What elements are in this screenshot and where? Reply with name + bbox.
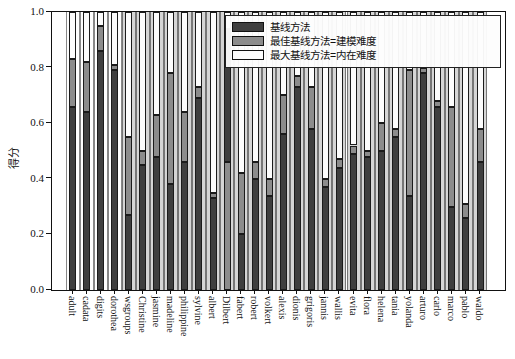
- bar-segment-gray: [448, 107, 455, 207]
- bar-segment-gray: [167, 73, 174, 184]
- bar-segment-dark: [406, 196, 413, 291]
- bar-segment-dark: [308, 129, 315, 290]
- legend-label: 基线方法: [270, 21, 310, 33]
- legend-swatch-gray: [232, 36, 264, 46]
- legend: 基线方法 最佳基线方法=建模难度 最大基线方法=内在难度: [225, 15, 501, 68]
- bar-segment-dark: [392, 137, 399, 290]
- bar-segment-white: [153, 12, 160, 115]
- x-tick-label: jannis: [319, 296, 329, 320]
- x-tick-mark: [451, 290, 452, 294]
- bar-segment-gray: [181, 112, 188, 162]
- x-tick-mark: [296, 290, 297, 294]
- x-tick-label: alexis: [277, 296, 287, 319]
- bar-segment-gray: [294, 76, 301, 87]
- x-tick-mark: [479, 290, 480, 294]
- bar-segment-dark: [462, 218, 469, 290]
- bar-segment-gray: [139, 151, 146, 165]
- legend-label: 最佳基线方法=建模难度: [270, 35, 376, 47]
- x-tick-label: fabert: [235, 296, 245, 319]
- x-tick-mark: [338, 290, 339, 294]
- x-tick-mark: [72, 290, 73, 294]
- y-tick-mark: [46, 177, 51, 178]
- y-tick-label: 0.2: [0, 227, 44, 239]
- bar-segment-dark: [294, 87, 301, 290]
- bar-segment-dark: [83, 112, 90, 290]
- bar-segment-dark: [477, 162, 484, 290]
- bar-segment-dark: [139, 165, 146, 290]
- bar-segment-gray: [350, 146, 357, 154]
- x-tick-mark: [184, 290, 185, 294]
- x-tick-label: wallis: [333, 296, 343, 320]
- bar-segment-gray: [238, 173, 245, 234]
- x-tick-label: Christine: [137, 296, 147, 333]
- x-tick-mark: [324, 290, 325, 294]
- bar-segment-gray: [322, 179, 329, 187]
- x-tick-mark: [409, 290, 410, 294]
- x-tick-mark: [381, 290, 382, 294]
- x-tick-mark: [423, 290, 424, 294]
- bar-segment-gray: [210, 193, 217, 199]
- bar-segment-gray: [224, 162, 231, 290]
- x-tick-label: arturo: [418, 296, 428, 320]
- x-tick-label: philippine: [179, 296, 189, 337]
- x-tick-mark: [128, 290, 129, 294]
- x-tick-mark: [156, 290, 157, 294]
- bar-segment-white: [167, 12, 174, 73]
- y-tick-label: 0.0: [0, 283, 44, 295]
- bar-segment-gray: [406, 70, 413, 195]
- x-tick-label: dorothea: [109, 296, 119, 331]
- bar-segment-gray: [153, 115, 160, 157]
- x-tick-label: yolanda: [404, 296, 414, 328]
- plot-area: 基线方法 最佳基线方法=建模难度 最大基线方法=内在难度: [51, 11, 506, 291]
- x-tick-label: adult: [67, 296, 77, 316]
- x-tick-mark: [100, 290, 101, 294]
- bar-segment-white: [125, 12, 132, 137]
- bar-segment-gray: [420, 68, 427, 74]
- x-tick-label: digits: [95, 296, 105, 318]
- x-tick-label: cadata: [81, 296, 91, 322]
- legend-swatch-white: [232, 50, 264, 60]
- x-tick-mark: [114, 290, 115, 294]
- legend-row: 最佳基线方法=建模难度: [232, 35, 494, 47]
- bar-segment-gray: [83, 62, 90, 112]
- legend-row: 基线方法: [232, 21, 494, 33]
- bar-segment-gray: [111, 65, 118, 71]
- y-tick-mark: [46, 11, 51, 12]
- bar-segment-white: [195, 12, 202, 87]
- bar-segment-dark: [97, 51, 104, 290]
- bar-segment-dark: [280, 134, 287, 290]
- y-tick-mark: [46, 66, 51, 67]
- bar-segment-white: [97, 12, 104, 26]
- x-tick-mark: [465, 290, 466, 294]
- bar-segment-gray: [125, 137, 132, 215]
- x-tick-mark: [170, 290, 171, 294]
- y-tick-label: 0.6: [0, 116, 44, 128]
- x-tick-label: flora: [362, 296, 372, 315]
- bar-segment-dark: [69, 107, 76, 291]
- bar-segment-dark: [167, 184, 174, 290]
- bar-segment-dark: [336, 168, 343, 290]
- x-tick-label: waldo: [474, 296, 484, 320]
- x-tick-mark: [198, 290, 199, 294]
- x-tick-label: tania: [390, 296, 400, 315]
- bar-segment-dark: [350, 154, 357, 290]
- y-axis-title: 得分: [5, 147, 21, 169]
- x-tick-label: madeline: [165, 296, 175, 333]
- legend-swatch-dark: [232, 22, 264, 32]
- x-tick-label: albert: [207, 296, 217, 319]
- bar-segment-gray: [97, 26, 104, 51]
- x-tick-label: grigoris: [305, 296, 315, 327]
- bar-segment-gray: [392, 129, 399, 137]
- x-tick-label: robert: [249, 296, 259, 320]
- bar-segment-dark: [195, 98, 202, 290]
- bar-segment-dark: [448, 207, 455, 290]
- bar-segment-gray: [434, 101, 441, 107]
- bar-segment-gray: [308, 87, 315, 129]
- x-tick-mark: [282, 290, 283, 294]
- bar-segment-gray: [364, 151, 371, 157]
- x-tick-label: helena: [376, 296, 386, 322]
- y-tick-label: 0.4: [0, 172, 44, 184]
- x-tick-label: wsgroups: [123, 296, 133, 334]
- bar-segment-gray: [336, 159, 343, 167]
- x-tick-mark: [240, 290, 241, 294]
